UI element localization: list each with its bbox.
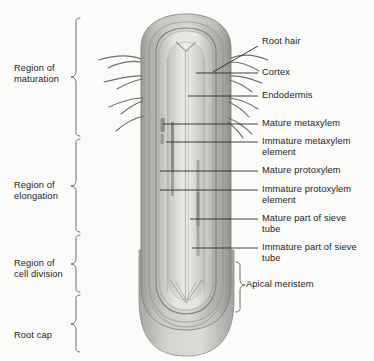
mature-metaxylem-strand [161, 118, 165, 132]
mature-sieve-tube-segment [197, 192, 200, 226]
structure-label-mature-metaxylem: Mature metaxylem [262, 118, 340, 129]
mature-protoxylem-segment [171, 122, 174, 172]
region-label-maturation: Region of maturation [14, 63, 59, 84]
bracket-maturation [71, 18, 80, 136]
apical-meristem-label: Apical meristem [246, 279, 314, 290]
bracket-root-cap [71, 295, 80, 352]
structure-label-immature-sieve-tube: Immature part of sieve tube [262, 242, 357, 263]
structure-label-immature-metaxylem: Immature metaxylem element [262, 136, 351, 157]
bracket-elongation [71, 139, 80, 232]
diagram-canvas: Region of maturation Region of elongatio… [0, 0, 374, 361]
immature-metaxylem-strand [161, 134, 164, 144]
structure-label-root-hair: Root hair [262, 36, 301, 47]
region-brackets [71, 18, 80, 352]
root-hairs-left [99, 56, 144, 131]
root-illustration [99, 14, 268, 356]
region-label-root-cap: Root cap [14, 330, 52, 341]
region-label-cell-division: Region of cell division [14, 258, 63, 279]
structure-label-mature-sieve-tube: Mature part of sieve tube [262, 213, 346, 234]
structure-label-immature-protoxylem: Immature protoxylem element [262, 184, 351, 205]
bracket-cell-division [71, 235, 80, 292]
structure-label-endodermis: Endodermis [262, 90, 313, 101]
region-label-elongation: Region of elongation [14, 180, 58, 201]
structure-label-mature-protoxylem: Mature protoxylem [262, 165, 341, 176]
apical-meristem-bracket [236, 262, 245, 312]
structure-label-cortex: Cortex [262, 67, 290, 78]
